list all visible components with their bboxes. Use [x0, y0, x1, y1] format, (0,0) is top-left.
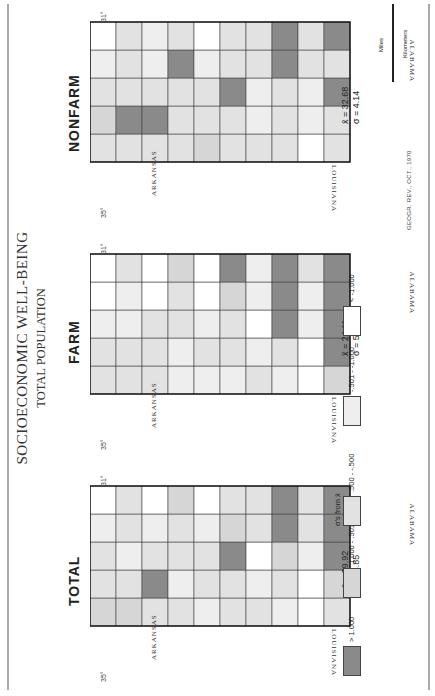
county	[298, 106, 324, 134]
county	[246, 514, 272, 542]
county	[90, 282, 116, 310]
county	[90, 486, 116, 514]
county	[168, 310, 194, 338]
lat-label: 35°	[100, 671, 107, 682]
panel-title: NONFARM	[66, 74, 82, 152]
county	[116, 486, 142, 514]
county	[272, 598, 298, 626]
county	[142, 542, 168, 570]
county	[194, 134, 220, 162]
county	[168, 106, 194, 134]
legend-swatch	[343, 568, 361, 598]
county	[272, 366, 298, 394]
county	[272, 254, 298, 282]
county	[298, 486, 324, 514]
scale-miles-label: Miles	[378, 38, 384, 52]
county	[272, 310, 298, 338]
county	[324, 22, 350, 50]
lat-label: 31°	[100, 243, 107, 254]
legend-swatch	[343, 496, 361, 526]
county-map	[90, 244, 370, 404]
county	[168, 338, 194, 366]
county	[116, 282, 142, 310]
county	[220, 486, 246, 514]
legend-swatch	[343, 646, 361, 676]
county-map	[90, 12, 370, 172]
county	[168, 282, 194, 310]
map-panel-farm: FARM x̄ = 24.11 σ = 5.24	[50, 232, 435, 464]
state-label-arkansas: ARKANSAS	[150, 614, 158, 660]
county	[116, 570, 142, 598]
source-note: GEOGR. REV., OCT., 1970	[406, 150, 412, 230]
county	[168, 22, 194, 50]
county	[246, 542, 272, 570]
county	[324, 134, 350, 162]
county	[116, 106, 142, 134]
county	[220, 78, 246, 106]
county-map	[90, 476, 370, 636]
county	[116, 134, 142, 162]
county	[194, 598, 220, 626]
county	[168, 134, 194, 162]
county	[272, 570, 298, 598]
county	[272, 282, 298, 310]
county	[168, 598, 194, 626]
county	[90, 22, 116, 50]
state-label-alabama: ALABAMA	[408, 40, 416, 82]
legend-swatch	[343, 306, 361, 336]
county	[298, 570, 324, 598]
county	[298, 598, 324, 626]
county	[116, 542, 142, 570]
legend-swatch	[343, 396, 361, 426]
county	[298, 78, 324, 106]
county	[116, 78, 142, 106]
county	[298, 366, 324, 394]
county	[272, 106, 298, 134]
county	[194, 486, 220, 514]
county	[220, 22, 246, 50]
mean-value: x̄ = 32.68	[340, 87, 351, 124]
county	[220, 598, 246, 626]
county	[116, 50, 142, 78]
state-label-louisiana: LOUISIANA	[330, 165, 338, 212]
county	[194, 78, 220, 106]
legend: > 1.000 1.000 - .501 σ's from x̄ .500 - …	[335, 236, 375, 676]
county	[90, 598, 116, 626]
legend-label: 1.000 - .501	[347, 524, 356, 564]
county	[194, 366, 220, 394]
legend-label: -.501 - -1.000	[347, 347, 356, 392]
county	[272, 78, 298, 106]
lat-label: 35°	[100, 207, 107, 218]
county	[272, 542, 298, 570]
county	[168, 78, 194, 106]
lat-label: 31°	[100, 11, 107, 22]
county	[168, 486, 194, 514]
sd-value: σ = 4.14	[351, 87, 362, 124]
county	[90, 366, 116, 394]
county	[116, 254, 142, 282]
county	[194, 22, 220, 50]
county	[246, 78, 272, 106]
county	[246, 338, 272, 366]
county	[194, 514, 220, 542]
county	[298, 22, 324, 50]
county	[246, 310, 272, 338]
county	[246, 570, 272, 598]
county	[142, 338, 168, 366]
county	[194, 50, 220, 78]
county	[272, 134, 298, 162]
county	[90, 254, 116, 282]
county	[194, 310, 220, 338]
county	[142, 50, 168, 78]
map-panel-nonfarm: NONFARM x̄ = 32.68 σ = 4.14	[50, 0, 435, 232]
county	[194, 570, 220, 598]
lat-label: 31°	[100, 475, 107, 486]
legend-label: < -1.000	[347, 274, 356, 302]
county	[90, 78, 116, 106]
panel-stats: x̄ = 32.68 σ = 4.14	[340, 87, 362, 124]
county	[220, 338, 246, 366]
county	[168, 514, 194, 542]
county	[90, 570, 116, 598]
county	[298, 514, 324, 542]
state-label-arkansas: ARKANSAS	[150, 150, 158, 196]
